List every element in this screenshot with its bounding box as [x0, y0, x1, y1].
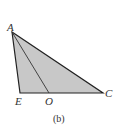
figure-caption: (b) [53, 114, 65, 124]
geometry-figure: A E O C (b) [0, 0, 117, 138]
point-label-e: E [15, 96, 22, 107]
point-label-a: A [7, 22, 14, 33]
point-label-o: O [45, 96, 53, 107]
triangle-aec [12, 32, 103, 93]
point-label-c: C [105, 88, 112, 99]
